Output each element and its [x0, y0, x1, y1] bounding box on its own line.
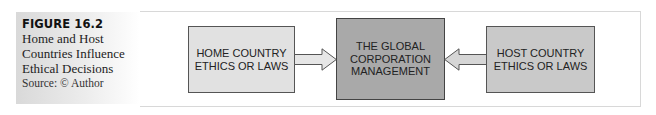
figure-label: FIGURE 16.2: [22, 17, 140, 31]
global-corporation-box: THE GLOBAL CORPORATION MANAGEMENT: [336, 18, 445, 100]
host-box-line-2: ETHICS OR LAWS: [494, 60, 588, 73]
home-box-line-2: ETHICS OR LAWS: [195, 60, 289, 73]
figure-title-line-3: Ethical Decisions: [22, 61, 140, 76]
arrow-left-icon: [444, 48, 487, 71]
center-box-line-2: CORPORATION: [350, 53, 431, 66]
figure-title-line-1: Home and Host: [22, 31, 140, 46]
host-box-line-1: HOST COUNTRY: [494, 47, 588, 60]
figure-source: Source: © Author: [22, 76, 140, 91]
figure-caption-panel: FIGURE 16.2 Home and Host Countries Infl…: [16, 12, 140, 104]
home-box-line-1: HOME COUNTRY: [195, 47, 289, 60]
center-box-line-1: THE GLOBAL: [350, 40, 431, 53]
center-box-line-3: MANAGEMENT: [350, 65, 431, 78]
home-country-box: HOME COUNTRY ETHICS OR LAWS: [188, 26, 295, 93]
figure-title-line-2: Countries Influence: [22, 46, 140, 61]
arrow-right-icon: [294, 48, 337, 71]
host-country-box: HOST COUNTRY ETHICS OR LAWS: [486, 26, 595, 93]
